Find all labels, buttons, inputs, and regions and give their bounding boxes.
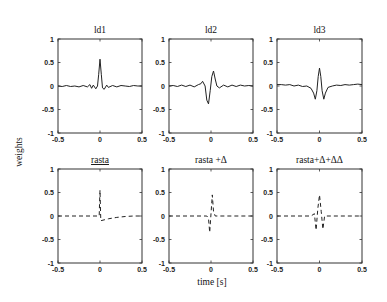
y-tick-label: 1 xyxy=(161,166,165,173)
series-line xyxy=(58,190,142,221)
y-tick-label: -0.5 xyxy=(42,236,54,243)
x-axis-label: time [s] xyxy=(197,277,226,287)
y-tick-label: -1 xyxy=(159,260,165,267)
y-tick-label: 1 xyxy=(50,166,54,173)
figure: weights time [s] ld1-0.500.510.50-0.5-1l… xyxy=(0,0,387,302)
x-tick-label: 0 xyxy=(318,136,322,143)
y-tick-label: 0 xyxy=(161,213,165,220)
subplot-title: rasta +Δ xyxy=(195,155,227,165)
x-tick-label: -0.5 xyxy=(52,136,64,143)
x-tick-label: 0.5 xyxy=(357,136,367,143)
axes-frame xyxy=(277,39,362,133)
y-tick-label: 0 xyxy=(269,83,273,90)
subplot-1: ld1-0.500.510.50-0.5-1 xyxy=(42,25,147,143)
y-tick-label: 0.5 xyxy=(44,189,54,196)
x-tick-label: 0 xyxy=(98,266,102,273)
y-tick-label: 0 xyxy=(50,213,54,220)
y-tick-label: 0.5 xyxy=(44,59,54,66)
x-tick-label: 0.5 xyxy=(137,266,147,273)
x-tick-label: -0.5 xyxy=(163,266,175,273)
y-tick-label: 1 xyxy=(269,166,273,173)
x-tick-label: 0 xyxy=(209,136,213,143)
y-tick-label: -0.5 xyxy=(261,236,273,243)
x-tick-label: 0.5 xyxy=(137,136,147,143)
x-tick-label: 0 xyxy=(209,266,213,273)
y-axis-label: weights xyxy=(14,137,24,167)
y-tick-label: 0.5 xyxy=(155,189,165,196)
x-tick-label: 0.5 xyxy=(248,266,258,273)
y-tick-label: -1 xyxy=(159,130,165,137)
subplot-5: rasta +Δ-0.500.510.50-0.5-1 xyxy=(153,155,258,273)
y-tick-label: 0.5 xyxy=(263,59,273,66)
subplot-2: ld2-0.500.510.50-0.5-1 xyxy=(153,25,258,143)
y-tick-label: 1 xyxy=(161,36,165,43)
subplot-4: rasta-0.500.510.50-0.5-1 xyxy=(42,155,147,273)
subplot-6: rasta+Δ+ΔΔ-0.500.510.50-0.5-1 xyxy=(261,155,367,273)
y-tick-label: 0 xyxy=(161,83,165,90)
x-tick-label: -0.5 xyxy=(163,136,175,143)
subplot-title: ld2 xyxy=(205,25,217,35)
subplot-title: ld3 xyxy=(313,25,325,35)
y-tick-label: -0.5 xyxy=(261,106,273,113)
x-tick-label: -0.5 xyxy=(271,136,283,143)
x-tick-label: 0.5 xyxy=(357,266,367,273)
x-tick-label: 0 xyxy=(318,266,322,273)
x-tick-label: -0.5 xyxy=(271,266,283,273)
subplot-title: rasta xyxy=(91,155,110,165)
y-tick-label: 0.5 xyxy=(263,189,273,196)
subplot-3: ld3-0.500.510.50-0.5-1 xyxy=(261,25,367,143)
y-tick-label: 1 xyxy=(50,36,54,43)
x-tick-label: 0 xyxy=(98,136,102,143)
y-tick-label: 1 xyxy=(269,36,273,43)
y-tick-label: 0 xyxy=(269,213,273,220)
y-tick-label: -0.5 xyxy=(153,236,165,243)
y-tick-label: 0 xyxy=(50,83,54,90)
y-tick-label: -1 xyxy=(48,130,54,137)
series-line xyxy=(277,195,362,230)
series-line xyxy=(169,195,253,233)
x-tick-label: 0.5 xyxy=(248,136,258,143)
subplot-title: rasta+Δ+ΔΔ xyxy=(296,155,343,165)
x-tick-label: -0.5 xyxy=(52,266,64,273)
y-tick-label: -0.5 xyxy=(153,106,165,113)
subplot-title: ld1 xyxy=(94,25,106,35)
series-line xyxy=(169,71,253,104)
y-tick-label: -1 xyxy=(267,260,273,267)
y-tick-label: -1 xyxy=(48,260,54,267)
y-tick-label: 0.5 xyxy=(155,59,165,66)
y-tick-label: -0.5 xyxy=(42,106,54,113)
series-line xyxy=(58,59,142,89)
series-line xyxy=(277,68,362,99)
y-tick-label: -1 xyxy=(267,130,273,137)
